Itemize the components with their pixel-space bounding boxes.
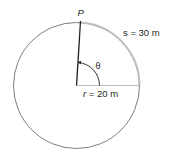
arc-length-label: s = 30 m — [123, 27, 160, 38]
angle-label-theta: θ — [96, 61, 101, 71]
radius-to-p — [77, 21, 81, 86]
arc-length-diagram: P s = 30 m θ r = 20 m — [0, 0, 171, 160]
radius-label: r = 20 m — [83, 88, 118, 99]
radius-value: = 20 m — [86, 88, 118, 99]
point-label-p: P — [78, 7, 85, 18]
